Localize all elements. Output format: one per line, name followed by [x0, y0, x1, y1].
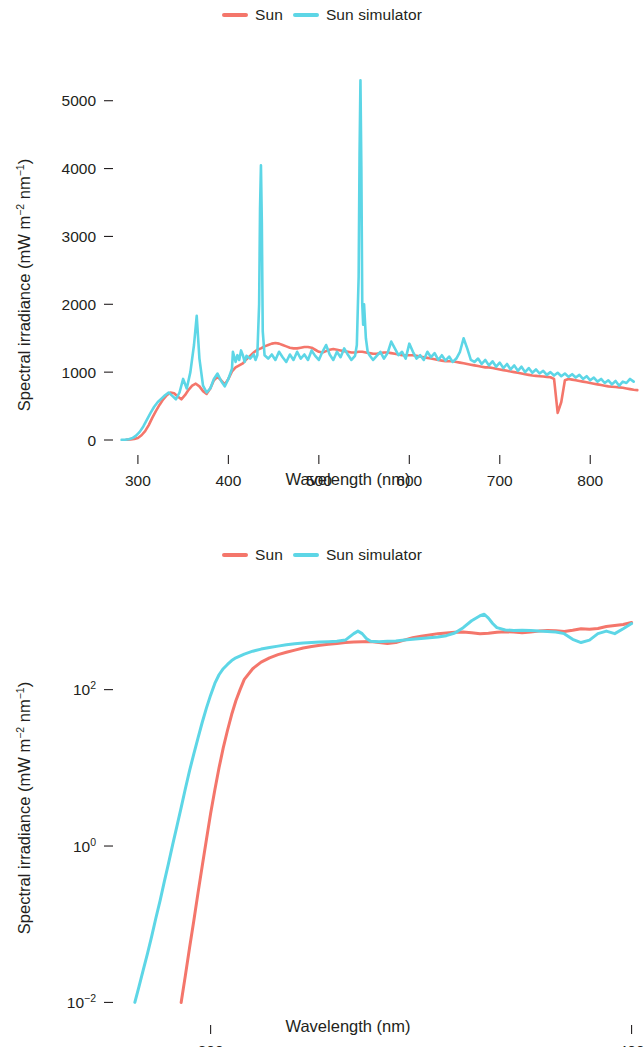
legend-swatch-sun-simulator [293, 13, 319, 17]
figure-linear-spectrum: Sun Sun simulator Spectral irradiance (m… [0, 0, 644, 500]
x-tick-label: 400 [215, 472, 241, 489]
x-tick-label: 400 [619, 1042, 644, 1047]
y-axis-title-linear: Spectral irradiance (mW m−2 nm−1) [14, 159, 33, 411]
legend-label-sun-simulator: Sun simulator [326, 546, 422, 564]
series-sun-simulator [135, 614, 632, 1002]
series-group-linear [122, 80, 638, 439]
y-tick-label: 0 [87, 432, 96, 449]
y-tick-label: 1000 [62, 364, 97, 381]
legend-swatch-sun [222, 13, 248, 17]
x-axis-title-linear: Wavelength (nm) [285, 470, 410, 488]
y-axis-ticks-log: 10−2100102 [67, 679, 113, 1011]
legend-log: Sun Sun simulator [0, 540, 644, 570]
plot-area-linear: Spectral irradiance (mW m−2 nm−1) 010002… [0, 30, 644, 500]
y-tick-label: 3000 [62, 228, 97, 245]
x-axis-title-log: Wavelength (nm) [285, 1017, 410, 1035]
legend-entry-sun: Sun [222, 546, 283, 564]
legend-entry-sun-simulator: Sun simulator [293, 6, 422, 24]
x-axis-ticks-log: 300400 [198, 1025, 644, 1047]
x-tick-label: 300 [198, 1042, 224, 1047]
legend-entry-sun: Sun [222, 6, 283, 24]
y-axis-title-log: Spectral irradiance (mW m−2 nm−1) [14, 682, 33, 934]
series-group-log [135, 614, 632, 1002]
series-sun [181, 623, 631, 1003]
y-tick-label: 10−2 [67, 992, 96, 1011]
legend-entry-sun-simulator: Sun simulator [293, 546, 422, 564]
x-tick-label: 800 [577, 472, 603, 489]
log-spectrum-svg: Spectral irradiance (mW m−2 nm−1) 10−210… [0, 570, 644, 1047]
x-tick-label: 300 [125, 472, 151, 489]
y-tick-label: 2000 [62, 296, 97, 313]
linear-spectrum-svg: Spectral irradiance (mW m−2 nm−1) 010002… [0, 30, 644, 500]
y-axis-ticks-linear: 010002000300040005000 [62, 92, 113, 448]
legend-label-sun: Sun [255, 546, 283, 564]
y-tick-label: 102 [73, 679, 96, 698]
y-tick-label: 100 [73, 836, 96, 855]
legend-label-sun: Sun [255, 6, 283, 24]
svg-text:Spectral irradiance (mW m−2 n: Spectral irradiance (mW m−2 nm−1) [14, 159, 33, 411]
plot-area-log: Spectral irradiance (mW m−2 nm−1) 10−210… [0, 570, 644, 1047]
legend-label-sun-simulator: Sun simulator [326, 6, 422, 24]
legend-linear: Sun Sun simulator [0, 0, 644, 30]
legend-swatch-sun-simulator [293, 553, 319, 557]
x-tick-label: 700 [487, 472, 513, 489]
svg-text:Spectral irradiance (mW m−2 n: Spectral irradiance (mW m−2 nm−1) [14, 682, 33, 934]
y-tick-label: 4000 [62, 160, 97, 177]
figure-log-spectrum: Sun Sun simulator Spectral irradiance (m… [0, 540, 644, 1047]
legend-swatch-sun [222, 553, 248, 557]
y-tick-label: 5000 [62, 92, 97, 109]
